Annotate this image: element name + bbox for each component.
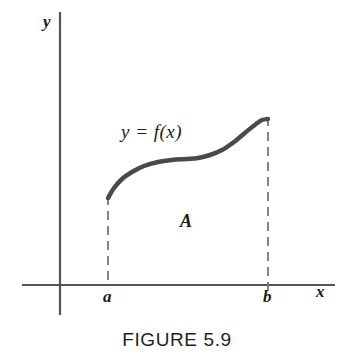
curve-equation-label: y = f(x): [121, 122, 182, 141]
y-axis-label: y: [43, 13, 51, 30]
tick-label-a: a: [103, 288, 112, 305]
tick-label-b: b: [263, 288, 272, 305]
region-area-label: A: [180, 212, 192, 230]
figure-caption: FIGURE 5.9: [0, 330, 354, 349]
plot-canvas: [0, 0, 354, 361]
x-axis-label: x: [316, 283, 325, 300]
figure-container: y x a b y = f(x) A FIGURE 5.9: [0, 0, 354, 361]
